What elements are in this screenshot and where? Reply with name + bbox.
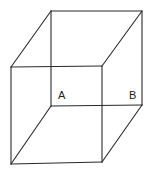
vertex-label-b: B	[129, 89, 136, 101]
vertex-label-a: A	[58, 89, 66, 101]
edge-front-top	[11, 66, 102, 67]
edge-connect-top-right	[102, 11, 142, 66]
edge-connect-bottom-right	[102, 105, 142, 162]
edge-connect-bottom-left	[11, 106, 51, 164]
edge-connect-top-left	[11, 11, 51, 67]
edge-front-bottom	[11, 162, 102, 164]
necker-cube-diagram: A B	[0, 0, 153, 173]
cube-edges	[11, 11, 142, 164]
edge-back-bottom	[51, 105, 142, 106]
